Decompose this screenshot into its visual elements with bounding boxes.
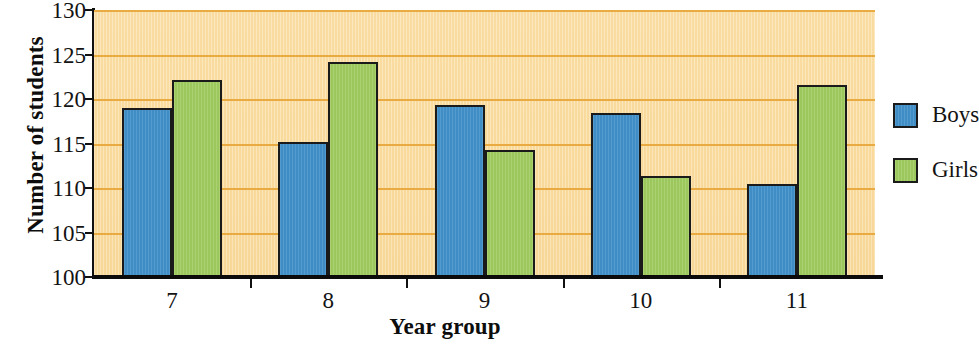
bar-boys-year-8 bbox=[278, 142, 328, 277]
y-axis-tick-mark bbox=[85, 98, 94, 100]
y-axis-tick-mark bbox=[85, 54, 94, 56]
legend-swatch-boys bbox=[893, 103, 918, 128]
y-axis-tick-mark bbox=[85, 9, 94, 11]
bar-boys-year-9 bbox=[435, 105, 485, 277]
bar-chart: Number of students 100105110115120125130… bbox=[0, 0, 979, 344]
y-axis-tick-label: 130 bbox=[52, 0, 87, 22]
y-axis-tick-labels: 100105110115120125130 bbox=[32, 0, 86, 290]
legend-item-boys: Boys bbox=[893, 100, 979, 130]
bar-girls-year-7 bbox=[172, 80, 222, 277]
x-axis-tick-label: 7 bbox=[166, 288, 178, 314]
y-axis-tick-label: 115 bbox=[52, 132, 86, 155]
x-axis-tick-label: 8 bbox=[323, 288, 335, 314]
bar-girls-year-11 bbox=[797, 85, 847, 277]
y-axis-tick-label: 100 bbox=[52, 266, 87, 289]
legend-label-girls: Girls bbox=[932, 157, 978, 183]
plot-area bbox=[94, 10, 875, 277]
x-axis-tick-mark bbox=[406, 279, 408, 288]
legend-label-boys: Boys bbox=[932, 102, 979, 128]
gridline bbox=[94, 10, 875, 12]
gridline bbox=[94, 55, 875, 57]
x-axis-line bbox=[92, 275, 883, 279]
x-axis-tick-mark bbox=[250, 279, 252, 288]
x-axis-tick-label: 10 bbox=[629, 288, 652, 314]
y-axis-tick-mark bbox=[85, 232, 94, 234]
bar-girls-year-9 bbox=[485, 150, 535, 277]
bar-girls-year-8 bbox=[328, 62, 378, 277]
y-axis-tick-label: 125 bbox=[52, 43, 87, 66]
bar-boys-year-7 bbox=[122, 108, 172, 277]
bar-boys-year-11 bbox=[747, 184, 797, 277]
x-axis-tick-mark bbox=[719, 279, 721, 288]
bar-boys-year-10 bbox=[591, 113, 641, 277]
x-axis-tick-label: 9 bbox=[479, 288, 491, 314]
y-axis-tick-mark bbox=[85, 187, 94, 189]
y-axis-tick-mark bbox=[85, 143, 94, 145]
legend-item-girls: Girls bbox=[893, 155, 979, 185]
y-axis-tick-mark bbox=[85, 276, 94, 278]
y-axis-tick-label: 120 bbox=[52, 88, 87, 111]
chart-legend: BoysGirls bbox=[893, 100, 979, 210]
legend-swatch-girls bbox=[893, 158, 918, 183]
y-axis-tick-label: 105 bbox=[52, 221, 87, 244]
x-axis-tick-label: 11 bbox=[786, 288, 808, 314]
x-axis-title: Year group bbox=[0, 314, 890, 340]
bar-girls-year-10 bbox=[641, 176, 691, 277]
x-axis-tick-mark bbox=[563, 279, 565, 288]
y-axis-tick-label: 110 bbox=[52, 177, 86, 200]
